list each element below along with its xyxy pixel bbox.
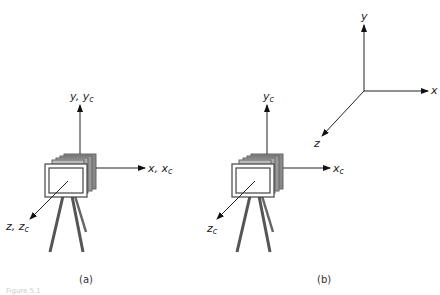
label-b-x: xc [333, 163, 344, 176]
world-axes [322, 25, 428, 136]
label-b-y: yc [263, 91, 274, 104]
label-world-y: y [361, 11, 368, 22]
caption-b: (b) [317, 275, 331, 285]
label-a-z: z, zc [6, 221, 29, 234]
label-a-y: y, yc [70, 91, 94, 104]
label-a-x: x, xc [148, 163, 172, 176]
figure-footer: Figure 5.1 [6, 288, 41, 295]
diagram-canvas [0, 0, 440, 295]
label-world-z: z [314, 138, 320, 149]
caption-a: (a) [79, 275, 93, 285]
label-world-x: x [431, 85, 438, 96]
label-b-z: zc [207, 223, 217, 236]
camera-a [45, 154, 96, 252]
camera-b [232, 154, 283, 252]
